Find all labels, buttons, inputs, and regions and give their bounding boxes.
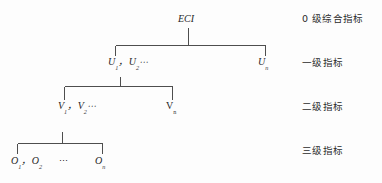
side-label-level-3: 三级指标: [302, 145, 344, 156]
node-separator-u: ，: [118, 56, 129, 67]
node-separator-o: ，: [21, 155, 32, 166]
node-on: On: [95, 155, 105, 170]
node-un: Un: [258, 56, 268, 71]
side-label-level-1: 一级指标: [302, 57, 344, 68]
node-u2-base: U: [129, 56, 136, 67]
side-label-level-0: 0 级综合指标: [302, 13, 364, 24]
node-vn: Vn: [166, 100, 176, 115]
node-o1: O1: [11, 155, 21, 166]
node-u2-sub: 2: [136, 64, 139, 71]
node-eci: ECI: [178, 13, 194, 24]
node-v2-sub: 2: [84, 108, 87, 115]
node-o2: O2: [32, 155, 42, 166]
node-v2: V2: [78, 100, 87, 111]
side-label-level-2: 二级指标: [302, 101, 344, 112]
node-eci-label: ECI: [178, 13, 194, 24]
node-group-v-left: V1，V2⋯: [58, 100, 97, 115]
node-group-o-left: O1，O2: [11, 155, 42, 170]
node-u1: U1: [108, 56, 118, 67]
node-ellipsis-u: ⋯: [139, 57, 149, 67]
node-o1-sub: 1: [18, 163, 21, 170]
node-u1-sub: 1: [115, 64, 118, 71]
node-ellipsis-v: ⋯: [87, 101, 97, 111]
node-separator-v: ，: [67, 100, 78, 111]
node-un-sub: n: [265, 64, 268, 71]
node-o2-sub: 2: [39, 163, 42, 170]
node-group-u-left: U1，U2⋯: [108, 56, 149, 71]
node-v1-sub: 1: [64, 108, 67, 115]
node-vn-sub: n: [173, 108, 176, 115]
node-on-sub: n: [102, 163, 105, 170]
node-u2: U2: [129, 56, 139, 67]
node-ellipsis-o: ⋯: [59, 156, 69, 167]
node-v1: V1: [58, 100, 67, 111]
node-v2-base: V: [78, 100, 84, 111]
node-o2-base: O: [32, 155, 39, 166]
diagram-canvas: ECI 0 级综合指标 U1，U2⋯ Un 一级指标 V1，V2⋯ Vn 二级指…: [0, 0, 382, 183]
